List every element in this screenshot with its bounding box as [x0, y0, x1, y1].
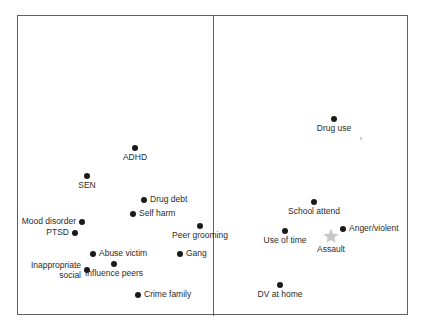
dot-marker-abuse-victim: [90, 251, 96, 257]
point-label-dv-at-home: DV at home: [258, 290, 303, 300]
right-panel: Drug use School attend Anger/violent Use…: [213, 15, 408, 315]
dot-marker-sen: [84, 173, 90, 179]
stray-speck: [360, 137, 362, 140]
point-label-anger-violent: Anger/violent: [349, 224, 399, 234]
point-label-self-harm: Self harm: [139, 209, 175, 219]
point-label-drug-debt: Drug debt: [150, 195, 187, 205]
dot-marker-influence-peers: [111, 261, 117, 267]
point-label-sen: SEN: [78, 181, 95, 191]
left-panel: ADHD SEN Drug debt Self harm Mood disord…: [17, 15, 213, 315]
dot-marker-drug-use: [331, 116, 337, 122]
point-label-drug-use: Drug use: [317, 124, 352, 134]
point-label-use-of-time: Use of time: [264, 236, 307, 246]
dot-marker-mood-disorder: [79, 219, 85, 225]
point-label-crime-family: Crime family: [144, 290, 191, 300]
point-label-gang: Gang: [186, 249, 207, 259]
dot-marker-drug-debt: [141, 197, 147, 203]
dot-marker-self-harm: [130, 211, 136, 217]
dot-marker-adhd: [132, 145, 138, 151]
dot-marker-ptsd: [72, 230, 78, 236]
dot-marker-inappropriate-social: [84, 267, 90, 273]
point-label-adhd: ADHD: [123, 153, 147, 163]
dot-marker-dv-at-home: [277, 282, 283, 288]
dot-marker-school-attend: [311, 199, 317, 205]
point-label-ptsd: PTSD: [46, 228, 69, 238]
point-label-abuse-victim: Abuse victim: [99, 249, 147, 259]
point-label-influence-peers: Influence peers: [85, 269, 143, 279]
dot-marker-anger-violent: [340, 226, 346, 232]
scatter-figure: ADHD SEN Drug debt Self harm Mood disord…: [0, 0, 423, 331]
dot-marker-crime-family: [135, 292, 141, 298]
point-label-assault: Assault: [317, 245, 345, 255]
dot-marker-peer-grooming: [197, 223, 203, 229]
point-label-mood-disorder: Mood disorder: [22, 217, 76, 227]
dot-marker-gang: [177, 251, 183, 257]
point-label-school-attend: School attend: [288, 207, 340, 217]
dot-marker-use-of-time: [282, 228, 288, 234]
point-label-inappropriate-social: Inappropriate social: [27, 261, 81, 280]
